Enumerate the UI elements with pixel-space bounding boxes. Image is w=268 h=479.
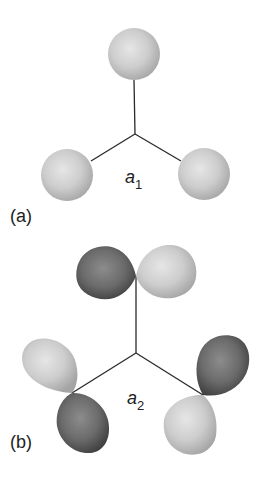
bond-line bbox=[135, 134, 181, 161]
bond-line bbox=[134, 80, 135, 134]
panel-a: a1 (a) bbox=[10, 28, 230, 226]
lobe-light bbox=[164, 395, 217, 455]
lobe-dark bbox=[196, 335, 249, 395]
panel-b: a2 (b) bbox=[10, 245, 249, 455]
s-orbital-top bbox=[108, 28, 160, 80]
p-orbital-left bbox=[22, 338, 109, 453]
bond-line bbox=[72, 353, 136, 393]
symmetry-label-a1: a1 bbox=[125, 167, 142, 192]
bond-line bbox=[91, 134, 135, 161]
lobe-dark bbox=[57, 393, 109, 453]
bond-line bbox=[136, 353, 203, 395]
lobe-light bbox=[22, 338, 77, 393]
symmetry-label-a2: a2 bbox=[127, 388, 144, 413]
panel-label-a: (a) bbox=[10, 206, 32, 226]
panel-label-b: (b) bbox=[10, 432, 32, 452]
p-orbital-right bbox=[164, 335, 249, 454]
s-orbital-right bbox=[178, 148, 230, 200]
lobe-light bbox=[136, 245, 196, 298]
orbital-diagram: a1 (a) a2 (b) bbox=[0, 0, 268, 479]
lobe-dark bbox=[76, 246, 136, 299]
s-orbital-left bbox=[41, 149, 93, 201]
